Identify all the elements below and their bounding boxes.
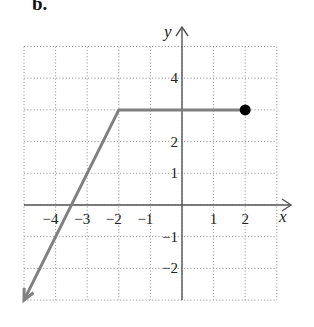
axes bbox=[24, 27, 291, 300]
x-tick-label: −3 bbox=[74, 211, 90, 227]
y-axis-label: y bbox=[162, 22, 172, 41]
x-tick-label: −1 bbox=[137, 211, 153, 227]
data-series bbox=[24, 104, 251, 300]
grid-lines bbox=[24, 47, 277, 301]
x-tick-label: −4 bbox=[43, 211, 59, 227]
graph: −4−3−2−112421−1−2 x y bbox=[0, 0, 314, 327]
x-tick-label: 1 bbox=[210, 211, 218, 227]
y-tick-label: −2 bbox=[162, 260, 178, 276]
y-tick-label: 2 bbox=[171, 134, 179, 150]
y-tick-label: −1 bbox=[162, 229, 178, 245]
x-tick-label: 2 bbox=[241, 211, 249, 227]
y-tick-label: 1 bbox=[171, 165, 179, 181]
x-axis-label: x bbox=[278, 207, 287, 226]
y-tick-label: 4 bbox=[171, 70, 179, 86]
x-tick-label: −2 bbox=[106, 211, 122, 227]
closed-endpoint-dot bbox=[240, 104, 251, 115]
